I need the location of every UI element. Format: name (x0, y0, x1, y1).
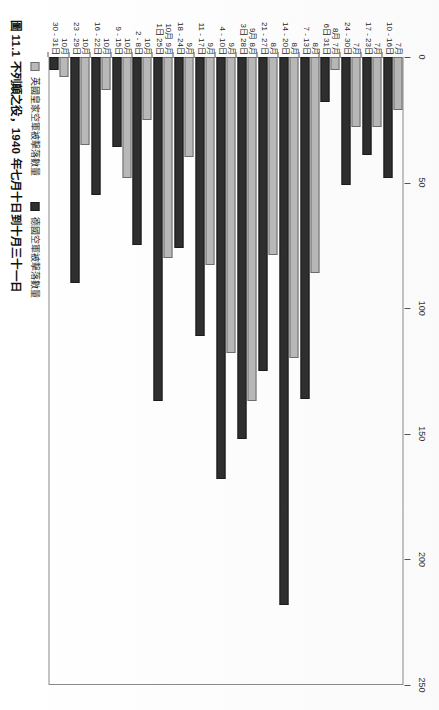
figure-page: 7月10 - 16日7月17 - 23日7月24 - 30日8月 7月6日 31… (0, 0, 439, 710)
category-label-line: 2 - 8日 (133, 31, 142, 55)
bar-luft (132, 57, 141, 245)
category-label-line: 10月 (59, 38, 68, 55)
bar-raf (310, 57, 319, 273)
bar-raf (247, 57, 256, 401)
category-label-line: 10月 (142, 38, 151, 55)
category-label-line: 30 - 31日 (50, 22, 59, 55)
category-label-line: 21 - 27日 (259, 22, 268, 55)
caption-number: 圖 11.1 (9, 20, 21, 57)
category-label: 10月30 - 31日 (50, 22, 68, 55)
bar-luft (300, 57, 309, 399)
bar-group (341, 57, 360, 685)
category-label-line: 9月 (226, 43, 235, 55)
axis-tick (404, 685, 410, 686)
bar-luft (320, 57, 329, 102)
axis-tick-label: 150 (416, 426, 426, 441)
bar-luft (258, 57, 267, 371)
bar-group (362, 57, 381, 685)
category-tick (193, 52, 194, 57)
category-label: 10月 9月1日 25日 (154, 23, 172, 55)
bar-raf (268, 57, 277, 255)
category-label: 9月 8月3日 28日 (238, 23, 256, 55)
bar-raf (163, 57, 172, 258)
legend-swatch-luft (30, 202, 39, 211)
category-label-line: 8月 (289, 43, 298, 55)
axis-tick-label: 100 (416, 301, 426, 316)
category-label-line: 9月 (205, 43, 214, 55)
bar-group (49, 57, 68, 685)
bar-raf (330, 57, 339, 70)
category-label-line: 10月 (101, 38, 110, 55)
category-tick (298, 52, 299, 57)
category-label: 9月4 - 10日 (217, 27, 235, 55)
category-label-line: 7月 (372, 43, 381, 55)
category-label: 9月11 - 17日 (196, 23, 214, 55)
plot-area: 050100150200250 (48, 57, 403, 685)
legend-label: 英國皇家空軍被擊落數量 (28, 77, 41, 176)
category-label-line: 10 - 16日 (384, 22, 393, 55)
category-label-line: 7月 (351, 43, 360, 55)
bar-raf (226, 57, 235, 353)
category-label-line: 18 - 24日 (175, 22, 184, 55)
category-label: 10月2 - 8日 (133, 31, 151, 55)
bar-group (174, 57, 193, 685)
category-label-line: 8月 (310, 43, 319, 55)
category-label: 10月9 - 15日 (113, 27, 131, 55)
bar-luft (174, 57, 183, 248)
chart-legend: 英國皇家空軍被擊落數量德國空軍被擊落數量 (28, 62, 41, 298)
axis-tick-label: 0 (416, 54, 426, 59)
category-label: 10月16 - 22日 (92, 22, 110, 55)
bar-group (112, 57, 131, 685)
bar-group (300, 57, 319, 685)
category-label-line: 10月 (122, 38, 131, 55)
category-tick (151, 52, 152, 57)
value-axis: 050100150200250 (403, 57, 404, 685)
bar-group (216, 57, 235, 685)
bar-luft (49, 57, 58, 70)
bar-raf (393, 57, 402, 110)
axis-tick-label: 50 (416, 178, 426, 188)
rotated-figure-canvas: 7月10 - 16日7月17 - 23日7月24 - 30日8月 7月6日 31… (0, 0, 439, 710)
bar-luft (383, 57, 392, 178)
category-tick (256, 52, 257, 57)
bar-luft (91, 57, 100, 195)
category-tick (318, 52, 319, 57)
category-tick (277, 52, 278, 57)
category-tick (172, 52, 173, 57)
figure-caption: 圖 11.1 不列顛之役，1940 年七月十日到十月三十一日 (8, 20, 24, 292)
bar-luft (362, 57, 371, 155)
caption-text: 不列顛之役，1940 年七月十日到十月三十一日 (9, 61, 21, 292)
category-label-line: 9月 (184, 43, 193, 55)
axis-tick (404, 57, 410, 58)
bar-luft (341, 57, 350, 185)
bar-group (153, 57, 172, 685)
bar-raf (289, 57, 298, 358)
category-tick (339, 52, 340, 57)
legend-item-raf: 英國皇家空軍被擊落數量 (28, 62, 41, 176)
bar-raf (122, 57, 131, 178)
category-label: 8月 7月6日 31日 (321, 23, 339, 55)
bar-group (195, 57, 214, 685)
axis-tick-label: 200 (416, 552, 426, 567)
legend-item-luft: 德國空軍被擊落數量 (28, 202, 41, 298)
axis-tick (404, 183, 410, 184)
category-tick (110, 52, 111, 57)
category-label-line: 9月 8月 (247, 28, 256, 55)
bar-group (320, 57, 339, 685)
bar-luft (279, 57, 288, 605)
category-tick (214, 52, 215, 57)
axis-tick (404, 434, 410, 435)
category-label-line: 10月 9月 (163, 23, 172, 55)
category-tick (89, 52, 90, 57)
category-label-line: 4 - 10日 (217, 27, 226, 55)
category-label-line: 11 - 17日 (196, 23, 205, 55)
category-label-line: 7 - 13日 (301, 27, 310, 55)
category-axis: 7月10 - 16日7月17 - 23日7月24 - 30日8月 7月6日 31… (48, 0, 403, 55)
bar-group (91, 57, 110, 685)
category-label-line: 23 - 29日 (71, 22, 80, 55)
category-label-line: 8月 (268, 43, 277, 55)
bar-raf (372, 57, 381, 127)
bar-luft (70, 57, 79, 283)
category-label: 8月14 - 20日 (280, 22, 298, 55)
axis-tick (404, 308, 410, 309)
